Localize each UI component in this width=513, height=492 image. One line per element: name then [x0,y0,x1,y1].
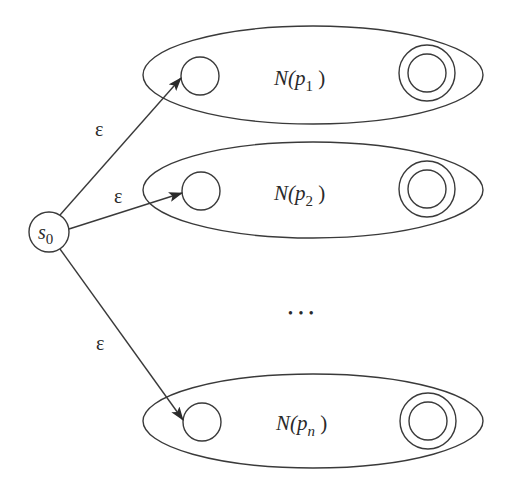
subautomaton-1: N(p1 ) [143,26,483,124]
epsilon-transition-2 [69,193,182,229]
subautomaton-label: N(p2 ) [273,181,325,209]
epsilon-label-1: ε [95,118,103,140]
accept-state-inner [408,54,446,92]
epsilon-transition-n [60,249,183,420]
ellipsis: • • • [288,306,315,321]
accept-state-inner [408,170,446,208]
nfa-diagram: N(p1 ) N(p2 ) • • • N(pn ) s0 ε ε ε [0,0,513,492]
subautomaton-n: N(pn ) [143,374,483,468]
start-state-node [181,57,219,95]
subautomaton-boundary [143,374,483,468]
accept-state-inner [409,402,447,440]
state-label: s0 [38,221,53,247]
subautomaton-2: N(p2 ) [143,142,483,238]
epsilon-label-n: ε [96,332,104,354]
epsilon-label-2: ε [114,185,122,207]
start-state-node [183,403,221,441]
subautomaton-label: N(pn ) [275,411,327,439]
start-state-s0: s0 [29,212,69,252]
subautomaton-label: N(p1 ) [273,66,325,94]
start-state-node [182,172,220,210]
